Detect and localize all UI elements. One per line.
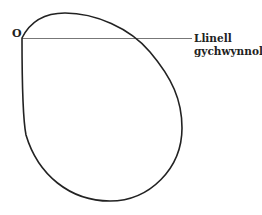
pole-label: O bbox=[12, 27, 22, 40]
closed-polar-curve bbox=[22, 13, 182, 201]
initial-line-label-line1: Llinell bbox=[194, 32, 262, 45]
initial-line-label-line2: gychwynnol bbox=[194, 45, 262, 58]
polar-curve-diagram: O Llinell gychwynnol bbox=[0, 0, 262, 215]
initial-line-label: Llinell gychwynnol bbox=[194, 32, 262, 58]
